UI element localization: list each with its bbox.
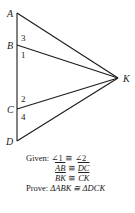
triangle-diagram: A B C D K 3 1 2 4 bbox=[0, 0, 135, 150]
prove-label: Prove: bbox=[26, 183, 48, 193]
given-line-2: AB ≅ DC bbox=[55, 163, 89, 173]
congruent-symbol: ≅ bbox=[68, 173, 76, 183]
segment-AK bbox=[17, 13, 118, 78]
segment-BK bbox=[17, 45, 118, 78]
congruent-symbol: ≅ bbox=[68, 163, 76, 173]
given-label: Given: bbox=[26, 153, 49, 163]
segment-CK bbox=[17, 78, 118, 109]
segment-DK bbox=[17, 78, 118, 141]
prove-line: Prove: ΔABK ≅ ΔDCK bbox=[26, 183, 105, 193]
given-line-3: BK ≅ CK bbox=[55, 173, 89, 183]
given-line-1: Given: ∠1 ≅ ∠2 bbox=[26, 153, 86, 163]
segment-CK: CK bbox=[78, 173, 89, 183]
angle-1-label: 1 bbox=[21, 50, 26, 60]
angle-2-label: 2 bbox=[21, 94, 26, 104]
label-B: B bbox=[7, 40, 13, 51]
prove-statement: ΔABK ≅ ΔDCK bbox=[50, 183, 105, 193]
angle-3-label: 3 bbox=[21, 33, 26, 43]
segment-AB: AB bbox=[55, 163, 65, 173]
segment-BK: BK bbox=[55, 173, 66, 183]
label-D: D bbox=[5, 136, 14, 147]
angle-4-label: 4 bbox=[21, 112, 26, 122]
segment-DC: DC bbox=[78, 163, 90, 173]
given-angles: ∠1 ≅ ∠2 bbox=[51, 153, 86, 163]
label-K: K bbox=[122, 73, 131, 84]
label-C: C bbox=[7, 104, 14, 115]
label-A: A bbox=[6, 8, 14, 19]
